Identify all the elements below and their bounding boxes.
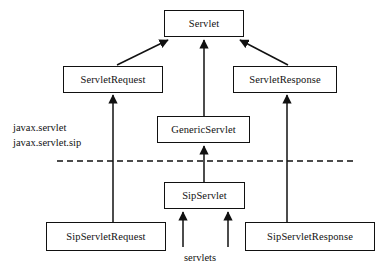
class-box-servlet[interactable]: Servlet bbox=[164, 10, 244, 37]
class-label-generic-servlet: GenericServlet bbox=[171, 124, 235, 135]
package-label-upper-text: javax.servlet bbox=[13, 122, 66, 133]
class-box-servlet-response[interactable]: ServletResponse bbox=[233, 66, 337, 93]
class-label-sip-servlet-response: SipServletResponse bbox=[267, 231, 353, 242]
edge-servlet-request-to-servlet bbox=[117, 40, 168, 65]
class-box-generic-servlet[interactable]: GenericServlet bbox=[157, 116, 250, 143]
class-box-servlet-request[interactable]: ServletRequest bbox=[63, 66, 163, 93]
class-diagram: Servlet ServletRequest ServletResponse G… bbox=[0, 0, 382, 272]
class-box-sip-servlet[interactable]: SipServlet bbox=[164, 182, 245, 209]
package-label-lower: javax.servlet.sip bbox=[13, 136, 81, 150]
class-label-servlet-response: ServletResponse bbox=[249, 74, 321, 85]
class-label-servlet: Servlet bbox=[189, 18, 219, 29]
servlets-caption: servlets bbox=[184, 252, 216, 263]
package-label-lower-text: javax.servlet.sip bbox=[13, 137, 81, 148]
package-label-upper: javax.servlet bbox=[13, 121, 66, 135]
class-box-sip-servlet-response[interactable]: SipServletResponse bbox=[245, 222, 375, 251]
servlets-caption-text: servlets bbox=[184, 252, 216, 263]
class-label-servlet-request: ServletRequest bbox=[81, 74, 146, 85]
edge-servlet-response-to-servlet bbox=[240, 40, 288, 65]
class-label-sip-servlet-request: SipServletRequest bbox=[66, 231, 145, 242]
class-label-sip-servlet: SipServlet bbox=[182, 190, 227, 201]
class-box-sip-servlet-request[interactable]: SipServletRequest bbox=[46, 222, 166, 251]
